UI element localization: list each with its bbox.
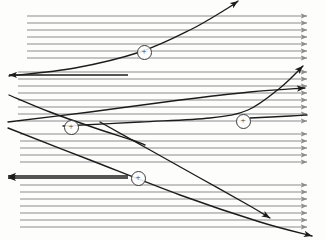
separatrix-curve <box>9 1 238 76</box>
separatrix-curve <box>250 115 307 118</box>
source-marker-plus: + <box>236 114 251 129</box>
figure-canvas <box>0 0 325 240</box>
flow-band <box>18 72 307 121</box>
flow-band <box>20 185 307 227</box>
source-marker-plus: + <box>137 45 152 60</box>
source-marker-plus: + <box>64 120 79 135</box>
separatrix-curve <box>100 122 270 218</box>
flow-band <box>27 16 307 58</box>
flow-field-figure: ++++ <box>0 0 325 240</box>
separatrix-group <box>8 1 312 236</box>
source-marker-plus: + <box>131 171 146 186</box>
